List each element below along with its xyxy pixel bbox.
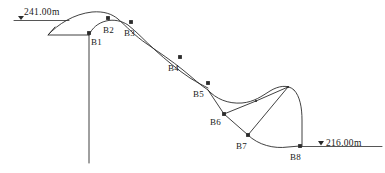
wedge-edge-b7-bulge (248, 87, 288, 135)
point-label-b6: B6 (210, 118, 221, 127)
borehole-marker-b6 (222, 112, 226, 116)
point-label-b1: B1 (91, 38, 102, 47)
point-label-b4: B4 (168, 64, 179, 73)
elevation-label-bottom: 216.00m (326, 139, 362, 149)
point-label-b5: B5 (193, 90, 204, 99)
left-terrace-line (48, 27, 89, 35)
node-dot-basin (255, 100, 257, 102)
point-label-b7: B7 (236, 142, 247, 151)
wedge-edge-crest-bulge (256, 87, 288, 101)
borehole-marker-b8 (298, 144, 302, 148)
borehole-marker-b4 (178, 55, 182, 59)
borehole-markers (87, 16, 302, 148)
borehole-marker-b2 (106, 16, 110, 20)
node-dot-bulge (287, 86, 289, 88)
point-label-b2: B2 (103, 26, 114, 35)
borehole-marker-b5 (206, 81, 210, 85)
diagram-canvas: 241.00m 216.00m B1B2B3B4B5B6B7B8 (0, 0, 385, 173)
bulge-right-limb (294, 90, 302, 146)
toe-curve (248, 135, 300, 148)
borehole-marker-b7 (246, 133, 250, 137)
wedge-edge-b5-b6 (208, 90, 224, 114)
elevation-triangle-bottom (318, 141, 324, 146)
ground-surface-curve (48, 12, 208, 90)
elevation-label-top: 241.00m (24, 8, 60, 18)
borehole-marker-b3 (129, 20, 133, 24)
point-label-b3: B3 (124, 29, 135, 38)
borehole-marker-b1 (87, 31, 91, 35)
point-label-b8: B8 (290, 153, 301, 162)
wedge-edge-b6-b7 (224, 114, 248, 135)
